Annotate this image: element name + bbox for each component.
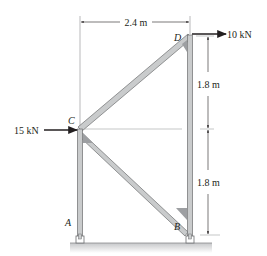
dimension-label-upper: 1.8 m [197, 79, 220, 90]
point-label-a: A [64, 217, 72, 228]
load-label-d: 10 kN [227, 29, 252, 40]
member-cd [78, 34, 192, 131]
gusset-b [176, 208, 187, 220]
gusset-c [83, 133, 93, 143]
point-label-c: C [68, 115, 75, 126]
point-label-b: B [174, 221, 180, 232]
load-label-c: 15 kN [14, 125, 39, 136]
dimension-vertical: 1.8 m 1.8 m [196, 36, 220, 235]
ground [70, 243, 212, 253]
member-bd [188, 35, 193, 236]
load-15kn: 15 kN [14, 125, 77, 136]
member-ac [78, 129, 83, 236]
point-label-d: D [173, 32, 182, 43]
member-cb [80, 131, 188, 236]
truss-diagram: 2.4 m 1.8 m 1.8 m [0, 0, 267, 256]
load-10kn: 10 kN [192, 29, 252, 40]
dimension-label-lower: 1.8 m [197, 177, 220, 188]
members [78, 34, 193, 236]
dimension-label-horizontal: 2.4 m [125, 17, 148, 28]
